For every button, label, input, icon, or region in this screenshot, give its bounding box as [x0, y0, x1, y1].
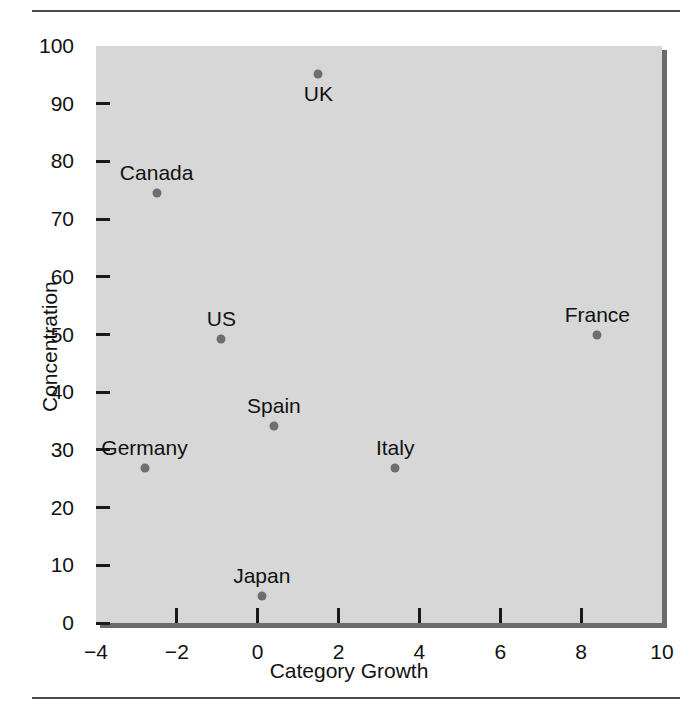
y-tick-label: 100 — [39, 35, 74, 56]
x-tick-mark — [175, 608, 178, 623]
y-tick-mark — [96, 218, 110, 221]
y-tick-label: 10 — [51, 554, 74, 575]
y-tick-mark — [96, 160, 110, 163]
data-point-label: US — [207, 308, 236, 329]
data-point[interactable] — [391, 464, 400, 473]
y-axis-title: Concentration — [38, 281, 62, 412]
data-point[interactable] — [217, 335, 226, 344]
x-tick-mark — [499, 608, 502, 623]
y-tick-mark — [96, 622, 110, 625]
top-divider-rule — [32, 10, 680, 12]
y-tick-mark — [96, 391, 110, 394]
data-point-label: Italy — [376, 437, 415, 458]
data-point-label: Canada — [120, 162, 194, 183]
y-tick-label: 30 — [51, 439, 74, 460]
data-point[interactable] — [314, 70, 323, 79]
y-tick-mark — [96, 333, 110, 336]
data-point-label: France — [565, 304, 630, 325]
plot-shadow-bottom — [100, 623, 667, 628]
data-point-label: Germany — [101, 437, 187, 458]
data-point-label: UK — [304, 83, 333, 104]
data-point-label: Spain — [247, 395, 301, 416]
y-tick-label: 70 — [51, 208, 74, 229]
x-tick-mark — [256, 608, 259, 623]
x-axis-title: Category Growth — [0, 659, 698, 683]
x-tick-mark — [580, 608, 583, 623]
y-tick-mark — [96, 506, 110, 509]
data-point[interactable] — [140, 464, 149, 473]
scatter-plot-figure: UKCanadaFranceUSSpainItalyGermanyJapan 0… — [0, 0, 698, 712]
data-point[interactable] — [269, 421, 278, 430]
y-tick-mark — [96, 102, 110, 105]
bottom-divider-rule — [32, 697, 680, 699]
data-point[interactable] — [593, 331, 602, 340]
x-tick-mark — [337, 608, 340, 623]
y-tick-mark — [96, 275, 110, 278]
plot-area: UKCanadaFranceUSSpainItalyGermanyJapan — [96, 46, 662, 623]
plot-shadow-right — [662, 50, 667, 627]
y-tick-label: 80 — [51, 150, 74, 171]
x-tick-mark — [418, 608, 421, 623]
y-tick-label: 20 — [51, 497, 74, 518]
data-point[interactable] — [152, 189, 161, 198]
y-tick-label: 90 — [51, 93, 74, 114]
data-point[interactable] — [257, 592, 266, 601]
y-tick-mark — [96, 564, 110, 567]
y-tick-label: 0 — [62, 612, 74, 633]
data-point-label: Japan — [233, 565, 290, 586]
